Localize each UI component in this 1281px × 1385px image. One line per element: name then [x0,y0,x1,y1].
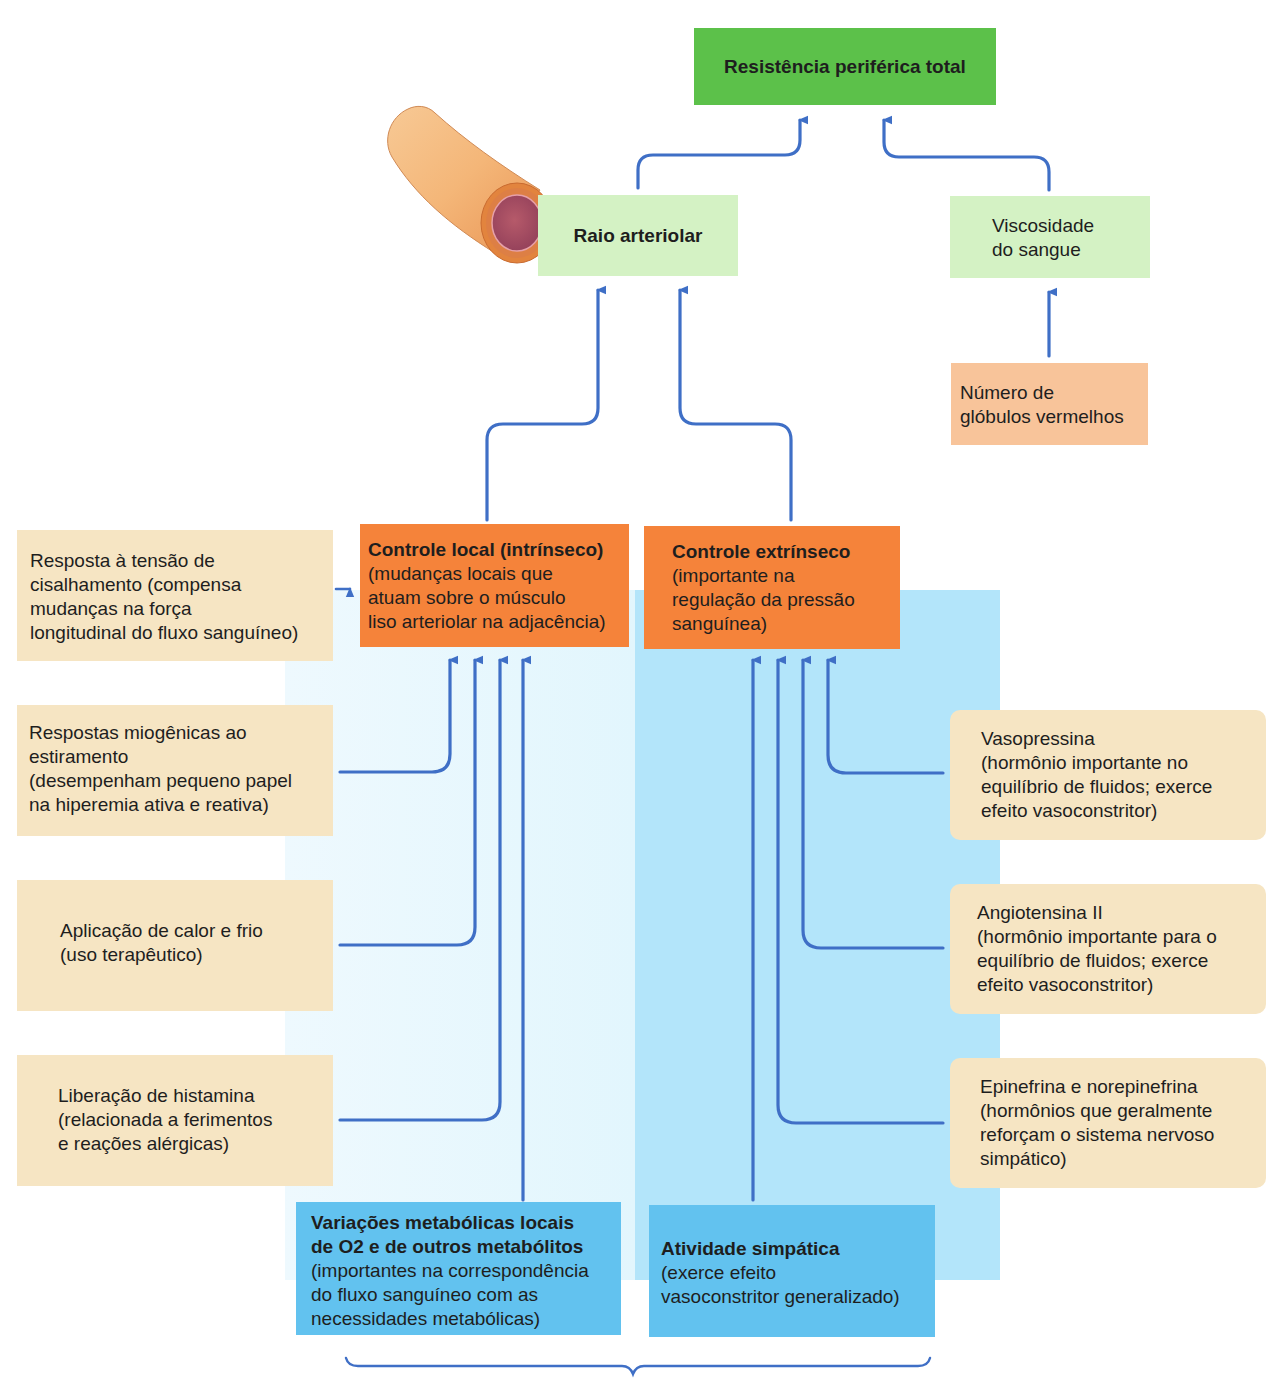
angiotensin-ii-line: Angiotensina II [977,901,1266,925]
shear-stress-line: cisalhamento (compensa [30,573,333,597]
blood-viscosity-box: Viscosidade do sangue [950,196,1150,278]
vasopressin-box: Vasopressina (hormônio importante no equ… [950,710,1266,840]
sympathetic-activity-title: Atividade simpática [661,1237,935,1261]
local-control-background-panel [285,590,635,1280]
angiotensin-ii-line: (hormônio importante para o [977,925,1266,949]
extrinsic-control-title: Controle extrínseco [672,540,900,564]
local-metabolic-changes-title: Variações metabólicas locais [311,1211,621,1235]
myogenic-response-box: Respostas miogênicas ao estiramento (des… [17,705,333,836]
sympathetic-activity-box: Atividade simpática (exerce efeito vasoc… [649,1205,935,1337]
shear-stress-line: longitudinal do fluxo sanguíneo) [30,621,333,645]
local-intrinsic-control-line: liso arteriolar na adjacência) [368,610,629,634]
total-peripheral-resistance-label: Resistência periférica total [724,55,966,79]
histamine-release-line: Liberação de histamina [58,1084,333,1108]
extrinsic-control-box: Controle extrínseco (importante na regul… [644,526,900,649]
vasopressin-line: (hormônio importante no [981,751,1266,775]
epinephrine-line: simpático) [980,1147,1266,1171]
heat-cold-application-box: Aplicação de calor e frio (uso terapêuti… [17,880,333,1011]
histamine-release-line: (relacionada a ferimentos [58,1108,333,1132]
angiotensin-ii-box: Angiotensina II (hormônio importante par… [950,884,1266,1014]
epinephrine-line: (hormônios que geralmente [980,1099,1266,1123]
myogenic-response-line: Respostas miogênicas ao [29,721,333,745]
angiotensin-ii-line: equilíbrio de fluidos; exerce [977,949,1266,973]
local-intrinsic-control-title: Controle local (intrínseco) [368,538,629,562]
myogenic-response-line: estiramento [29,745,333,769]
sympathetic-activity-line: vasoconstritor generalizado) [661,1285,935,1309]
histamine-release-box: Liberação de histamina (relacionada a fe… [17,1055,333,1186]
blood-viscosity-line: do sangue [992,238,1150,262]
sympathetic-activity-line: (exerce efeito [661,1261,935,1285]
heat-cold-line: Aplicação de calor e frio [60,919,333,943]
arteriolar-radius-box: Raio arteriolar [538,195,738,276]
myogenic-response-line: (desempenham pequeno papel [29,769,333,793]
heat-cold-line: (uso terapêutico) [60,943,333,967]
extrinsic-control-line: sanguínea) [672,612,900,636]
red-blood-cell-count-line: Número de [960,381,1148,405]
angiotensin-ii-line: efeito vasoconstritor) [977,973,1266,997]
local-metabolic-changes-line: necessidades metabólicas) [311,1307,621,1331]
red-blood-cell-count-line: glóbulos vermelhos [960,405,1148,429]
vasopressin-line: efeito vasoconstritor) [981,799,1266,823]
local-intrinsic-control-box: Controle local (intrínseco) (mudanças lo… [360,524,629,647]
arteriole-illustration-icon [380,95,560,265]
histamine-release-line: e reações alérgicas) [58,1132,333,1156]
myogenic-response-line: na hiperemia ativa e reativa) [29,793,333,817]
local-intrinsic-control-line: atuam sobre o músculo [368,586,629,610]
vasopressin-line: Vasopressina [981,727,1266,751]
shear-stress-line: mudanças na força [30,597,333,621]
local-metabolic-changes-line: do fluxo sanguíneo com as [311,1283,621,1307]
epinephrine-norepinephrine-box: Epinefrina e norepinefrina (hormônios qu… [950,1058,1266,1188]
local-metabolic-changes-title: de O2 e de outros metabólitos [311,1235,621,1259]
extrinsic-control-line: (importante na [672,564,900,588]
extrinsic-control-background-panel [635,590,1000,1280]
extrinsic-control-line: regulação da pressão [672,588,900,612]
local-metabolic-changes-box: Variações metabólicas locais de O2 e de … [296,1202,621,1335]
vasopressin-line: equilíbrio de fluidos; exerce [981,775,1266,799]
local-intrinsic-control-line: (mudanças locais que [368,562,629,586]
arteriolar-radius-label: Raio arteriolar [574,224,703,248]
blood-viscosity-line: Viscosidade [992,214,1150,238]
shear-stress-line: Resposta à tensão de [30,549,333,573]
total-peripheral-resistance-box: Resistência periférica total [694,28,996,105]
shear-stress-response-box: Resposta à tensão de cisalhamento (compe… [17,530,333,661]
red-blood-cell-count-box: Número de glóbulos vermelhos [951,363,1148,445]
local-metabolic-changes-line: (importantes na correspondência [311,1259,621,1283]
epinephrine-line: reforçam o sistema nervoso [980,1123,1266,1147]
epinephrine-line: Epinefrina e norepinefrina [980,1075,1266,1099]
